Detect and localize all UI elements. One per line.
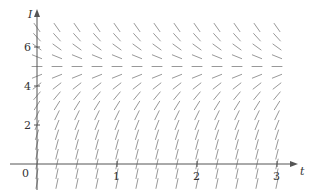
slope-segment — [256, 140, 259, 150]
slope-segment — [214, 101, 219, 109]
slope-segment — [213, 83, 221, 89]
slope-segment — [275, 111, 279, 120]
slope-segment — [112, 74, 121, 78]
slope-segment — [152, 74, 161, 78]
slope-segment — [154, 34, 161, 41]
slope-segment — [174, 23, 180, 31]
slope-segment — [92, 55, 101, 59]
slope-segment — [74, 101, 79, 109]
slope-segment — [135, 111, 139, 120]
slope-segment — [94, 101, 99, 109]
slope-segment — [236, 140, 239, 150]
slope-segment — [156, 140, 159, 150]
y-tick-label-6: 6 — [24, 41, 31, 54]
slope-segment — [176, 140, 179, 150]
slope-segment — [76, 140, 79, 150]
slope-segment — [134, 34, 141, 41]
x-tick-label-2: 2 — [193, 170, 200, 183]
slope-segment — [153, 83, 161, 89]
slope-segment — [133, 83, 141, 89]
slope-segment — [193, 83, 201, 89]
slope-segment — [134, 101, 139, 109]
slope-segment — [254, 101, 259, 109]
slope-segment — [73, 44, 81, 50]
slope-segment — [116, 140, 119, 150]
slope-segment — [193, 44, 201, 50]
slope-segment — [236, 169, 238, 179]
slope-segment — [54, 101, 59, 109]
slope-segment — [214, 92, 220, 100]
slope-segment — [114, 101, 119, 109]
slope-segment — [192, 55, 201, 59]
slope-segment — [275, 120, 279, 129]
slope-segment — [74, 23, 80, 31]
slope-segment — [236, 179, 238, 189]
slope-segment — [216, 149, 218, 159]
slope-segment — [214, 34, 221, 41]
slope-segment — [234, 23, 240, 31]
slope-segment — [276, 140, 279, 150]
slope-segment — [93, 44, 101, 50]
slope-segment — [136, 169, 138, 179]
slope-segment — [75, 120, 79, 129]
slope-segment — [235, 120, 239, 129]
slope-segment — [174, 34, 181, 41]
slope-segment — [215, 120, 219, 129]
slope-segment — [213, 44, 221, 50]
slope-segment — [234, 101, 239, 109]
slope-segment — [256, 179, 258, 189]
slope-segment — [254, 23, 260, 31]
slope-segment — [194, 34, 201, 41]
slope-segment — [94, 23, 100, 31]
slope-segment — [253, 44, 261, 50]
slope-segment — [95, 120, 99, 129]
slope-segment — [235, 111, 239, 120]
slope-segment — [272, 55, 281, 59]
slope-segment — [96, 140, 99, 150]
slope-segment — [74, 92, 80, 100]
slope-segment — [212, 74, 221, 78]
slope-segment — [173, 44, 181, 50]
slope-segment — [196, 140, 199, 150]
slope-segment — [134, 23, 140, 31]
y-tick-label-4: 4 — [24, 80, 31, 93]
slope-segment — [255, 130, 258, 140]
slope-segment — [196, 149, 198, 159]
slope-segment — [274, 101, 279, 109]
slope-segment — [154, 23, 160, 31]
t-axis-arrow-icon — [290, 161, 298, 167]
slope-segment — [216, 140, 219, 150]
slope-segment — [195, 130, 198, 140]
slope-segment — [72, 74, 81, 78]
slope-segment — [172, 74, 181, 78]
slope-segment — [94, 92, 100, 100]
slope-segment — [152, 55, 161, 59]
slope-segment — [195, 111, 199, 120]
slope-segment — [75, 130, 78, 140]
slope-segment — [76, 149, 78, 159]
slope-segment — [273, 83, 281, 89]
slope-segment — [274, 23, 280, 31]
slope-segment — [53, 83, 61, 89]
slope-segment — [234, 92, 240, 100]
slope-segment — [115, 130, 118, 140]
slope-segment — [192, 74, 201, 78]
slope-segment — [135, 130, 138, 140]
slope-segment — [194, 101, 199, 109]
slope-segment — [54, 23, 60, 31]
slope-segment — [96, 149, 98, 159]
slope-segment — [52, 74, 61, 78]
slope-segment — [175, 130, 178, 140]
slope-segment — [155, 111, 159, 120]
slope-segment — [115, 120, 119, 129]
slope-segment — [252, 55, 261, 59]
slope-segment — [53, 44, 61, 50]
slope-segment — [56, 140, 59, 150]
slope-segment — [113, 83, 121, 89]
slope-segment — [156, 149, 158, 159]
slope-segment — [74, 34, 81, 41]
slope-segment — [54, 34, 61, 41]
slope-segment — [136, 149, 138, 159]
slope-segment — [216, 169, 218, 179]
slope-segment — [55, 130, 58, 140]
